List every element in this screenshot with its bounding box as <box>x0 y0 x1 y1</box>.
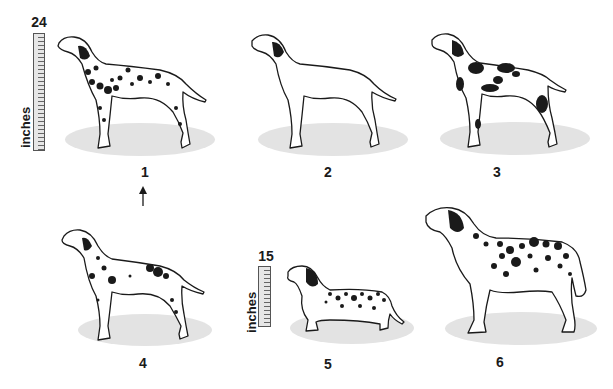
dog-illustration-5 <box>0 0 613 389</box>
dog-illustration-6 <box>0 0 613 389</box>
arrow-up-icon <box>138 186 148 206</box>
dog-number-label: 2 <box>324 164 332 180</box>
dog-number-label: 6 <box>496 354 504 370</box>
ruler-small-unit-label: inches <box>244 292 259 333</box>
dog-illustration-3 <box>0 0 613 389</box>
ruler-large <box>33 33 45 151</box>
dog-panel-1: 1 <box>0 0 613 389</box>
ground-shadow <box>440 122 590 155</box>
dog-number-label: 1 <box>141 164 149 180</box>
ruler-large-unit-label: inches <box>18 107 33 148</box>
dog-panel-2: 2 <box>0 0 613 389</box>
ground-shadow <box>258 123 408 156</box>
ruler-small <box>258 266 271 327</box>
ground-shadow <box>65 123 215 156</box>
dog-number-label: 4 <box>139 355 147 371</box>
dog-panel-5: 5 <box>0 0 613 389</box>
dog-panel-3: 3 <box>0 0 613 389</box>
dog-number-label: 5 <box>324 356 332 372</box>
dog-panel-4: 4 <box>0 0 613 389</box>
ground-shadow <box>78 314 212 346</box>
dog-number-label: 3 <box>493 164 501 180</box>
ground-shadow <box>445 312 597 345</box>
dog-panel-6: 6 <box>0 0 613 389</box>
ruler-large-max-label: 24 <box>31 14 47 30</box>
dog-illustration-4 <box>0 0 613 389</box>
dog-illustration-2 <box>0 0 613 389</box>
dog-illustration-1 <box>0 0 613 389</box>
ruler-small-max-label: 15 <box>258 248 274 264</box>
ground-shadow <box>290 312 414 344</box>
